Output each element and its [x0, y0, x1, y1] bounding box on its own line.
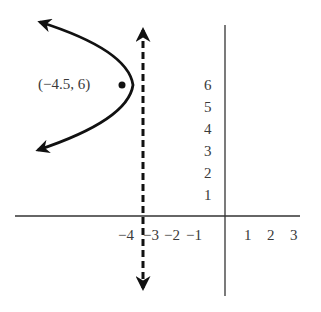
y-tick-label: 1	[204, 188, 212, 203]
chart-figure: (−4.5, 6) 6 5 4 3 2 1 −4 −3 −2 −1 1 2 3	[0, 0, 321, 312]
x-tick-label: 2	[267, 228, 275, 243]
x-tick-label: −3	[143, 228, 159, 243]
x-tick-label: 1	[244, 228, 252, 243]
vertex-label: (−4.5, 6)	[38, 77, 90, 92]
y-tick-label: 4	[204, 122, 212, 137]
chart-graphics	[0, 0, 321, 312]
y-tick-label: 6	[204, 78, 212, 93]
x-tick-label: −4	[118, 228, 134, 243]
vertex-point	[119, 82, 126, 89]
x-tick-label: −1	[186, 228, 202, 243]
y-tick-label: 3	[204, 144, 212, 159]
y-tick-label: 2	[204, 166, 212, 181]
y-tick-label: 5	[204, 100, 212, 115]
x-tick-label: 3	[290, 228, 298, 243]
x-tick-label: −2	[164, 228, 180, 243]
